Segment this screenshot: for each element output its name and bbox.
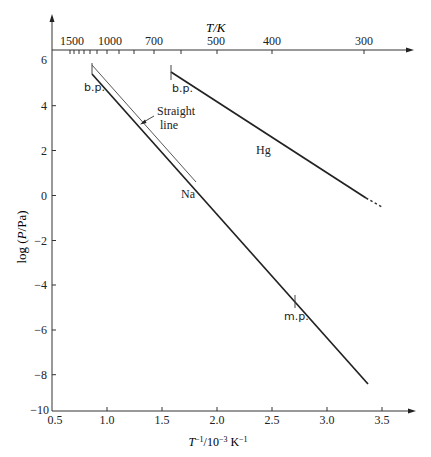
vapor-pressure-chart: 1500 1000 700 500 400 300 T/K 6 4 2 0 −2… [0, 0, 431, 457]
x-tick-2.5: 2.5 [265, 413, 280, 427]
y-tick-2: 2 [41, 144, 47, 158]
y-tick-6: 6 [41, 53, 47, 67]
x-tick-2.0: 2.0 [210, 413, 225, 427]
top-tick-1000: 1000 [98, 34, 122, 48]
y-tick-neg6: −6 [34, 323, 47, 337]
y-tick-neg2: −2 [34, 234, 47, 248]
y-axis-arrow-icon [50, 14, 55, 22]
straight-line-label-1: Straight [157, 104, 196, 118]
x-tick-1.0: 1.0 [100, 413, 115, 427]
y-tick-neg8: −8 [34, 368, 47, 382]
x-axis-label: T−1/10−3 K−1 [188, 435, 247, 449]
x-tick-0.5: 0.5 [48, 413, 63, 427]
x-tick-3.0: 3.0 [320, 413, 335, 427]
y-axis-label: log (P/Pa) [14, 210, 29, 263]
na-label: Na [181, 187, 196, 201]
top-tick-700: 700 [145, 34, 163, 48]
top-tick-400: 400 [263, 34, 281, 48]
top-tick-1500: 1500 [60, 34, 84, 48]
top-axis-label: T/K [206, 20, 227, 35]
hg-series-line [171, 72, 366, 198]
x-tick-3.5: 3.5 [375, 413, 390, 427]
y-tick-4: 4 [41, 99, 47, 113]
hg-extrapolated-line [366, 198, 382, 207]
y-tick-0: 0 [41, 189, 47, 203]
na-mp-label: m.p. [284, 310, 309, 323]
top-ticks [70, 50, 364, 54]
y-ticks [52, 106, 56, 375]
top-tick-500: 500 [207, 34, 225, 48]
top-tick-300: 300 [355, 34, 373, 48]
hg-label: Hg [256, 143, 271, 157]
na-series-line [92, 74, 368, 384]
top-axis-arrow-icon [406, 48, 414, 53]
y-tick-neg10: −10 [30, 403, 49, 417]
straight-line-label-2: line [160, 118, 178, 132]
x-tick-1.5: 1.5 [155, 413, 170, 427]
y-tick-neg4: −4 [34, 278, 47, 292]
x-axis-arrow-icon [408, 409, 416, 414]
hg-bp-label: b.p. [172, 82, 193, 95]
x-ticks [107, 407, 382, 411]
na-bp-label: b.p. [84, 81, 105, 94]
